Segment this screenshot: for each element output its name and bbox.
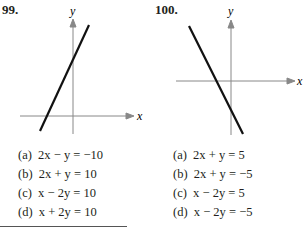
y-axis-label: y (227, 4, 234, 18)
option-b: (b) 2x + y = 10 (18, 165, 103, 184)
option-b: (b) 2x + y = −5 (173, 165, 252, 184)
option-d: (d) x + 2y = 10 (18, 203, 103, 222)
option-c: (c) x − 2y = 5 (173, 184, 252, 203)
divider (0, 226, 127, 227)
graph-line (189, 26, 243, 134)
graph-100: x y (0, 0, 304, 140)
answer-options: (a) 2x + y = 5 (b) 2x + y = −5 (c) x − 2… (173, 146, 252, 222)
option-d: (d) x − 2y = −5 (173, 203, 252, 222)
option-a: (a) 2x + y = 5 (173, 146, 252, 165)
option-c: (c) x − 2y = 10 (18, 184, 103, 203)
x-axis-label: x (296, 74, 303, 88)
y-axis-arrow-icon (228, 20, 234, 28)
answer-options: (a) 2x − y = −10 (b) 2x + y = 10 (c) x −… (18, 146, 103, 222)
x-axis-arrow-icon (287, 78, 295, 84)
option-a: (a) 2x − y = −10 (18, 146, 103, 165)
